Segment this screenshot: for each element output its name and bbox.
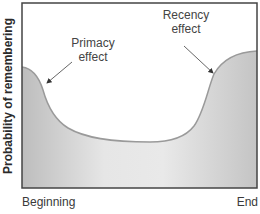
serial-position-chart bbox=[0, 0, 260, 214]
primacy-line1: Primacy bbox=[68, 36, 118, 50]
primacy-annotation: Primacy effect bbox=[68, 36, 118, 64]
y-axis-label: Probability of remembering bbox=[1, 18, 15, 174]
x-tick-beginning: Beginning bbox=[22, 195, 75, 209]
recency-line1: Recency bbox=[156, 8, 216, 22]
recency-annotation: Recency effect bbox=[156, 8, 216, 36]
primacy-line2: effect bbox=[68, 50, 118, 64]
x-tick-end: End bbox=[237, 195, 258, 209]
primacy-arrow bbox=[47, 62, 72, 83]
recency-line2: effect bbox=[156, 22, 216, 36]
recency-arrow bbox=[184, 46, 213, 73]
